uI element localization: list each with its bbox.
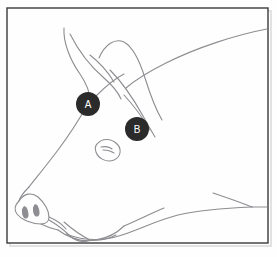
- marker-a[interactable]: A: [76, 92, 100, 116]
- marker-a-circle[interactable]: [76, 92, 100, 116]
- marker-b-circle[interactable]: [125, 117, 149, 141]
- pig-head-illustration: A B: [0, 0, 277, 257]
- marker-b[interactable]: B: [125, 117, 149, 141]
- figure-container: A B: [0, 0, 277, 257]
